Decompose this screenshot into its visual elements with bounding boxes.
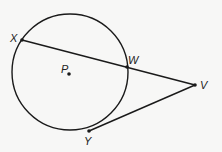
secant-xv <box>22 40 195 85</box>
label-v: V <box>200 79 209 91</box>
point-x-dot <box>20 38 24 42</box>
circle-p <box>12 14 128 130</box>
tangent-yv <box>89 85 195 131</box>
label-w: W <box>128 54 140 66</box>
point-v-dot <box>193 83 197 87</box>
geometry-diagram: X W V Y P <box>0 0 222 152</box>
point-y-dot <box>87 129 91 133</box>
label-y: Y <box>84 135 92 147</box>
label-x: X <box>9 32 18 44</box>
label-p: P <box>61 63 69 75</box>
